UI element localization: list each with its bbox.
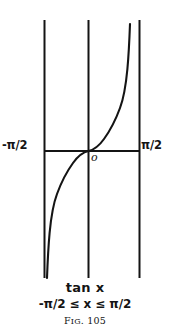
figure-number-suffix: . 105	[81, 315, 106, 326]
caption-function-name: tan x	[0, 281, 170, 296]
axis-label-pos-half-pi: π/2	[141, 140, 162, 152]
caption-figure-number: FIG. 105	[0, 315, 170, 327]
figure-caption: tan x -π/2 ≤ x ≤ π/2 FIG. 105	[0, 281, 170, 327]
figure-number-prefix: F	[64, 315, 71, 326]
caption-domain-range: -π/2 ≤ x ≤ π/2	[0, 297, 170, 312]
figure-number-smallcaps: IG	[71, 317, 81, 326]
axis-label-neg-half-pi: -π/2	[2, 140, 27, 152]
origin-label: o	[91, 152, 98, 163]
figure-tan-x: -π/2 π/2 o tan x -π/2 ≤ x ≤ π/2 FIG. 105	[0, 0, 170, 332]
